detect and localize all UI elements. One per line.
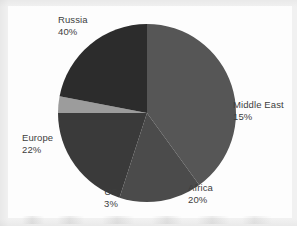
pie-label-middle-east-name: Middle East [233, 99, 284, 111]
pie-label-africa: Africa 20% [188, 182, 213, 205]
chart-page: Russia 40% Middle East 15% Africa 20% US… [0, 0, 297, 226]
pie-label-us: US 3% [95, 186, 127, 209]
pie-label-europe-name: Europe [22, 132, 53, 144]
pie-label-africa-value: 20% [188, 194, 213, 206]
pie-label-russia-value: 40% [58, 26, 88, 38]
pie-label-us-name: US [95, 186, 127, 198]
pie-label-africa-name: Africa [188, 182, 213, 194]
pie-label-europe: Europe 22% [22, 132, 53, 155]
pie-label-russia-name: Russia [58, 14, 88, 26]
pie-label-middle-east-value: 15% [233, 111, 284, 123]
pie-chart: Russia 40% Middle East 15% Africa 20% US… [0, 0, 297, 226]
pie-label-russia: Russia 40% [58, 14, 88, 37]
pie-label-middle-east: Middle East 15% [233, 99, 284, 122]
page-bleed-through-artifact [22, 216, 272, 224]
pie-label-europe-value: 22% [22, 144, 53, 156]
pie-label-us-value: 3% [95, 198, 127, 210]
